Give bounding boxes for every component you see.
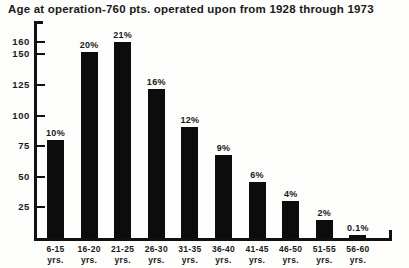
bar-value-label: 21% [113, 30, 132, 40]
y-axis-tick [37, 176, 45, 178]
y-axis-tick [37, 206, 45, 208]
x-axis-label: 56-60yrs. [338, 244, 378, 266]
bar[interactable] [249, 182, 266, 238]
x-axis-label-range: 41-45 [245, 244, 268, 254]
x-axis-label-range: 51-55 [313, 244, 336, 254]
bar[interactable] [316, 220, 333, 238]
bar[interactable] [215, 155, 232, 238]
x-axis-label-range: 16-20 [77, 244, 100, 254]
x-axis-label-range: 21-25 [111, 244, 134, 254]
x-axis-label-range: 6-15 [46, 244, 64, 254]
bar-value-label: 16% [147, 77, 166, 87]
bar-value-label: 6% [250, 170, 264, 180]
y-axis-tick [37, 115, 45, 117]
y-axis-top-cap [34, 21, 43, 24]
y-axis-tick-label: 50 [2, 171, 30, 182]
bar[interactable] [181, 127, 198, 238]
plot-area: 160150125100755025 10%20%21%16%12%9%6%4%… [0, 0, 409, 268]
x-axis-label-range: 26-30 [145, 244, 168, 254]
y-axis-tick-label: 150 [2, 48, 30, 59]
bar-value-label: 20% [80, 40, 99, 50]
bar-value-label: 0.1% [347, 223, 369, 233]
x-axis-label-range: 36-40 [212, 244, 235, 254]
bar[interactable] [282, 201, 299, 238]
y-axis-tick-label: 25 [2, 201, 30, 212]
bar[interactable] [47, 140, 64, 238]
bar-value-label: 9% [217, 143, 231, 153]
x-axis-end-cap [389, 230, 392, 241]
y-axis-tick-label: 125 [2, 79, 30, 90]
y-axis-tick [37, 145, 45, 147]
y-axis-tick-label: 160 [2, 36, 30, 47]
x-axis-label-range: 31-35 [178, 244, 201, 254]
bar[interactable] [349, 235, 366, 238]
x-axis-label-unit: yrs. [338, 255, 378, 266]
bar-chart: Age at operation-760 pts. operated upon … [0, 0, 409, 268]
y-axis-tick [37, 84, 45, 86]
bar[interactable] [81, 52, 98, 238]
x-axis-label-range: 46-50 [279, 244, 302, 254]
x-axis-label-range: 56-60 [346, 244, 369, 254]
bar-value-label: 4% [284, 189, 298, 199]
bar-value-label: 2% [317, 208, 331, 218]
y-axis-tick [37, 41, 45, 43]
y-axis-tick-label: 75 [2, 140, 30, 151]
y-axis-tick [37, 53, 45, 55]
bar-value-label: 10% [46, 128, 65, 138]
bar[interactable] [114, 42, 131, 238]
y-axis-tick-label: 100 [2, 110, 30, 121]
bar[interactable] [148, 89, 165, 238]
x-axis-line [34, 238, 392, 241]
bar-value-label: 12% [180, 115, 199, 125]
